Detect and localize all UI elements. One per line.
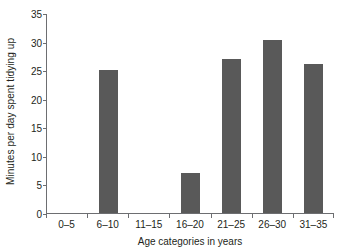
y-axis-tick-label: 10: [31, 151, 42, 162]
plot-area: [46, 14, 334, 214]
x-axis-tick-label: 6–10: [87, 219, 128, 235]
y-axis-title: Minutes per day spent tidying up: [0, 0, 22, 222]
y-axis-tick-labels: 05101520253035: [20, 14, 42, 214]
x-axis-tick-mark: [333, 214, 334, 218]
x-axis-tick-mark: [169, 214, 170, 218]
y-axis-tick-label: 0: [36, 209, 42, 220]
bar-slot: [211, 14, 252, 213]
y-axis-tick-mark: [43, 185, 47, 186]
bar: [181, 173, 200, 213]
bar-slot: [47, 14, 88, 213]
y-axis-tick-mark: [43, 100, 47, 101]
x-axis-tick-label: 0–5: [46, 219, 87, 235]
y-axis-tick-label: 30: [31, 37, 42, 48]
bar-chart: Minutes per day spent tidying up 0510152…: [0, 0, 339, 252]
bars-layer: [47, 14, 334, 213]
y-axis-tick-mark: [43, 71, 47, 72]
y-axis-tick-mark: [43, 157, 47, 158]
bar-slot: [88, 14, 129, 213]
bar: [222, 59, 241, 213]
x-axis-tick-label: 16–20: [169, 219, 210, 235]
x-axis-tick-mark: [293, 214, 294, 218]
x-axis-tick-mark: [46, 214, 47, 218]
x-axis-tick-label: 31–35: [293, 219, 334, 235]
y-axis-tick-mark: [43, 128, 47, 129]
x-axis-tick-mark: [252, 214, 253, 218]
bar-slot: [129, 14, 170, 213]
y-axis-tick-mark: [43, 14, 47, 15]
x-axis-tick-label: 11–15: [128, 219, 169, 235]
y-axis-tick-label: 20: [31, 94, 42, 105]
bar: [99, 70, 118, 213]
bar-slot: [293, 14, 334, 213]
y-axis-tick-label: 15: [31, 123, 42, 134]
y-axis-tick-label: 25: [31, 66, 42, 77]
y-axis-title-text: Minutes per day spent tidying up: [6, 37, 17, 184]
bar-slot: [170, 14, 211, 213]
x-axis-tick-mark: [211, 214, 212, 218]
y-axis-tick-label: 5: [36, 180, 42, 191]
x-axis-title: Age categories in years: [46, 236, 334, 247]
y-axis-tick-mark: [43, 43, 47, 44]
x-axis-tick-mark: [87, 214, 88, 218]
bar: [263, 40, 282, 213]
bar: [304, 64, 323, 213]
x-axis-tick-label: 21–25: [211, 219, 252, 235]
bar-slot: [252, 14, 293, 213]
x-axis-tick-labels: 0–56–1011–1516–2021–2526–3031–35: [46, 219, 334, 235]
x-axis-tick-label: 26–30: [252, 219, 293, 235]
y-axis-tick-label: 35: [31, 9, 42, 20]
x-axis-tick-mark: [128, 214, 129, 218]
